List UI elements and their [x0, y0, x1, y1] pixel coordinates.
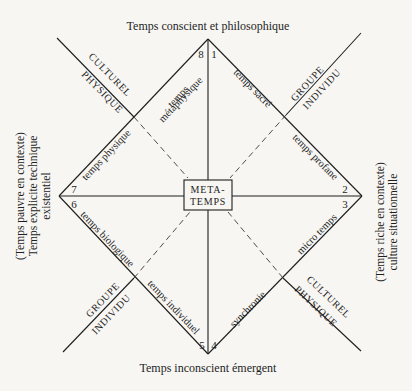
sector-label-temps-profane: temps profane [291, 132, 341, 183]
number-2: 2 [342, 183, 348, 195]
right-axis-label: (Temps riche en contexte) culture situat… [374, 162, 399, 282]
axis-pair-top-left: CULTUREL PHYSIQUE [80, 51, 134, 115]
meta-temps-box: META- TEMPS [184, 180, 232, 210]
sector-label-temps-metaphysique: temps métaphysique [156, 74, 204, 124]
sector-label-synchronie: synchronie [228, 289, 268, 330]
sector-label-temps-sacre: temps sacré [232, 67, 275, 110]
svg-text:META-: META- [191, 184, 226, 195]
axis-pair-bottom-right: CULTUREL PHYSIQUE [293, 273, 353, 328]
svg-text:Temps explicite technique: Temps explicite technique [27, 136, 40, 257]
svg-text:(Temps riche en contexte): (Temps riche en contexte) [374, 162, 387, 282]
svg-text:TEMPS: TEMPS [190, 196, 226, 207]
sector-label-micro-temps: micro temps [295, 211, 339, 256]
sector-label-temps-individuel: temps individuel [146, 278, 202, 337]
svg-text:culture situationnelle: culture situationnelle [387, 174, 399, 271]
axis-pair-bottom-left: GROUPE INDIVIDU [83, 280, 132, 336]
top-axis-label: Temps conscient et philosophique [127, 19, 290, 33]
number-8: 8 [198, 48, 204, 60]
left-axis-label: (Temps pauvre en contexte) Temps explici… [14, 132, 52, 260]
number-5: 5 [199, 339, 205, 351]
number-1: 1 [211, 48, 217, 60]
svg-text:métaphysique: métaphysique [156, 74, 204, 124]
svg-text:existentiel: existentiel [40, 172, 52, 219]
bottom-axis-label: Temps inconscient émergent [140, 361, 278, 375]
meta-temps-diagram: Temps conscient et philosophique Temps i… [0, 0, 412, 391]
number-7: 7 [71, 183, 77, 195]
number-4: 4 [211, 339, 217, 351]
svg-text:(Temps pauvre en contexte): (Temps pauvre en contexte) [14, 132, 27, 260]
number-3: 3 [342, 198, 348, 210]
number-6: 6 [71, 198, 77, 210]
sector-label-temps-biologique: temps biologique [79, 209, 137, 269]
sector-label-temps-physique: temps physique [79, 127, 132, 182]
